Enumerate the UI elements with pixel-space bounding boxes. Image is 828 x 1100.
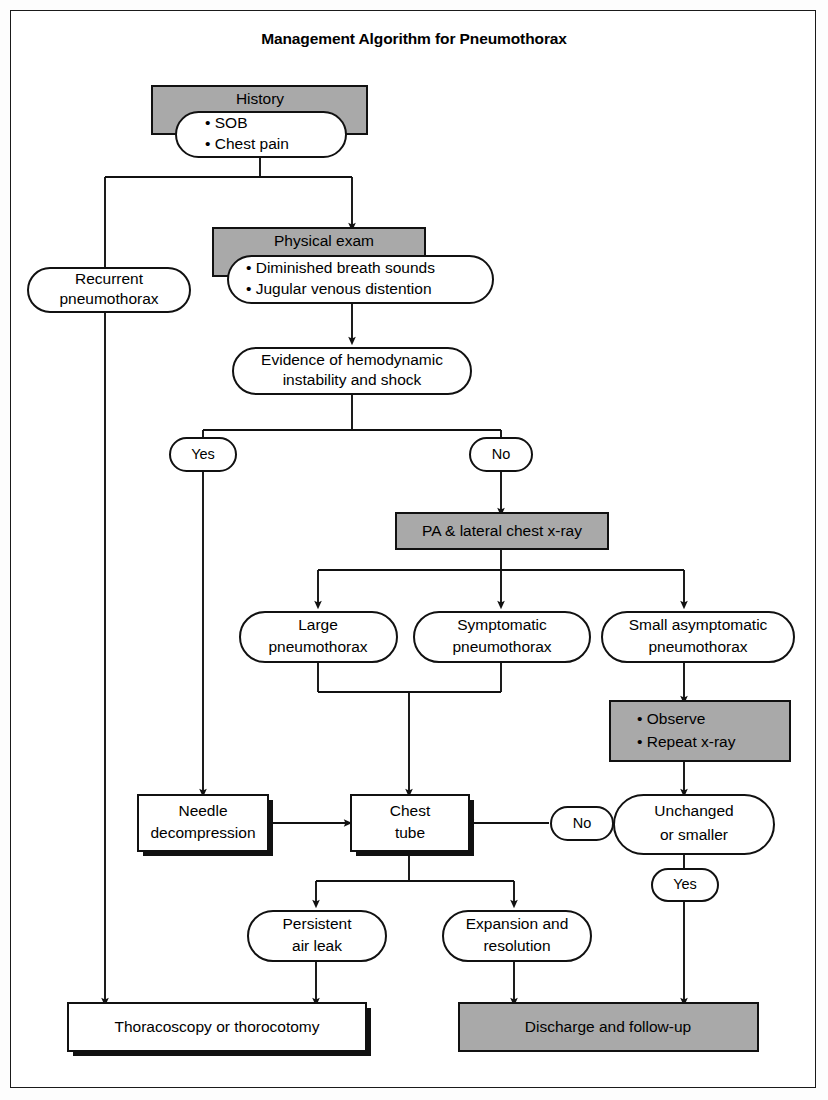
node-observe-repeat-xray[interactable]: • Observe • Repeat x-ray: [610, 701, 790, 761]
physical-exam-item-2: • Jugular venous distention: [246, 280, 432, 297]
symptomatic-line-2: pneumothorax: [452, 638, 551, 655]
node-physical-exam[interactable]: Physical exam • Diminished breath sounds…: [213, 228, 493, 303]
observe-item-1: • Observe: [637, 710, 705, 727]
node-unchanged-or-smaller[interactable]: Unchanged or smaller: [614, 795, 774, 854]
thoracoscopy-label: Thoracoscopy or thorocotomy: [114, 1018, 319, 1035]
history-item-1: • SOB: [205, 114, 247, 131]
small-asymptomatic-line-2: pneumothorax: [648, 638, 747, 655]
connector-large-symptomatic-merge: [318, 662, 501, 793]
node-thoracoscopy[interactable]: Thoracoscopy or thorocotomy: [68, 1003, 371, 1056]
recurrent-line-1: Recurrent: [75, 270, 144, 287]
needle-line-1: Needle: [178, 802, 227, 819]
diagram-page: Management Algorithm for Pneumothorax: [0, 0, 828, 1100]
hemodynamic-line-2: instability and shock: [283, 371, 422, 388]
physical-exam-item-1: • Diminished breath sounds: [246, 259, 435, 276]
unchanged-line-1: Unchanged: [654, 802, 733, 819]
connector-chest-tube-split: [316, 855, 514, 904]
decision-no-bottom-label: No: [573, 815, 592, 831]
node-large-pneumothorax[interactable]: Large pneumothorax: [240, 612, 397, 662]
history-header-label: History: [236, 90, 284, 107]
decision-no-bottom[interactable]: No: [551, 807, 613, 840]
needle-line-2: decompression: [150, 824, 255, 841]
node-hemodynamic-instability[interactable]: Evidence of hemodynamic instability and …: [233, 348, 471, 394]
persistent-line-1: Persistent: [283, 915, 353, 932]
node-chest-xray[interactable]: PA & lateral chest x-ray: [396, 513, 608, 549]
node-needle-decompression[interactable]: Needle decompression: [138, 795, 273, 856]
node-chest-tube[interactable]: Chest tube: [351, 795, 474, 856]
decision-yes-bottom[interactable]: Yes: [652, 869, 718, 901]
unchanged-line-2: or smaller: [660, 826, 728, 843]
decision-yes-bottom-label: Yes: [673, 876, 697, 892]
decision-no-top[interactable]: No: [470, 438, 532, 471]
node-recurrent-pneumothorax[interactable]: Recurrent pneumothorax: [28, 268, 190, 312]
hemodynamic-line-1: Evidence of hemodynamic: [261, 351, 443, 368]
observe-item-2: • Repeat x-ray: [637, 733, 736, 750]
large-line-1: Large: [298, 616, 338, 633]
history-item-2: • Chest pain: [205, 135, 289, 152]
expansion-line-1: Expansion and: [466, 915, 569, 932]
node-history[interactable]: History • SOB • Chest pain: [152, 86, 367, 157]
physical-exam-header-label: Physical exam: [274, 232, 374, 249]
chest-tube-line-1: Chest: [390, 802, 431, 819]
symptomatic-line-1: Symptomatic: [457, 616, 547, 633]
expansion-line-2: resolution: [483, 937, 550, 954]
node-symptomatic-pneumothorax[interactable]: Symptomatic pneumothorax: [414, 612, 590, 662]
decision-yes-top[interactable]: Yes: [170, 438, 236, 471]
large-line-2: pneumothorax: [268, 638, 367, 655]
chest-tube-line-2: tube: [395, 824, 425, 841]
persistent-line-2: air leak: [292, 937, 342, 954]
node-persistent-air-leak[interactable]: Persistent air leak: [248, 911, 386, 961]
small-asymptomatic-line-1: Small asymptomatic: [629, 616, 768, 633]
node-discharge-followup[interactable]: Discharge and follow-up: [459, 1003, 758, 1051]
connector-xray-three-way: [318, 549, 684, 605]
decision-no-top-label: No: [492, 446, 511, 462]
flowchart-canvas: History • SOB • Chest pain Recurrent pne…: [0, 0, 828, 1100]
chest-xray-label: PA & lateral chest x-ray: [422, 522, 582, 539]
node-small-asymptomatic-pneumothorax[interactable]: Small asymptomatic pneumothorax: [602, 612, 794, 662]
connector-hemodynamic-split: [203, 393, 501, 438]
node-expansion-and-resolution[interactable]: Expansion and resolution: [443, 911, 591, 961]
decision-yes-top-label: Yes: [191, 446, 215, 462]
recurrent-line-2: pneumothorax: [59, 290, 158, 307]
discharge-label: Discharge and follow-up: [525, 1018, 691, 1035]
